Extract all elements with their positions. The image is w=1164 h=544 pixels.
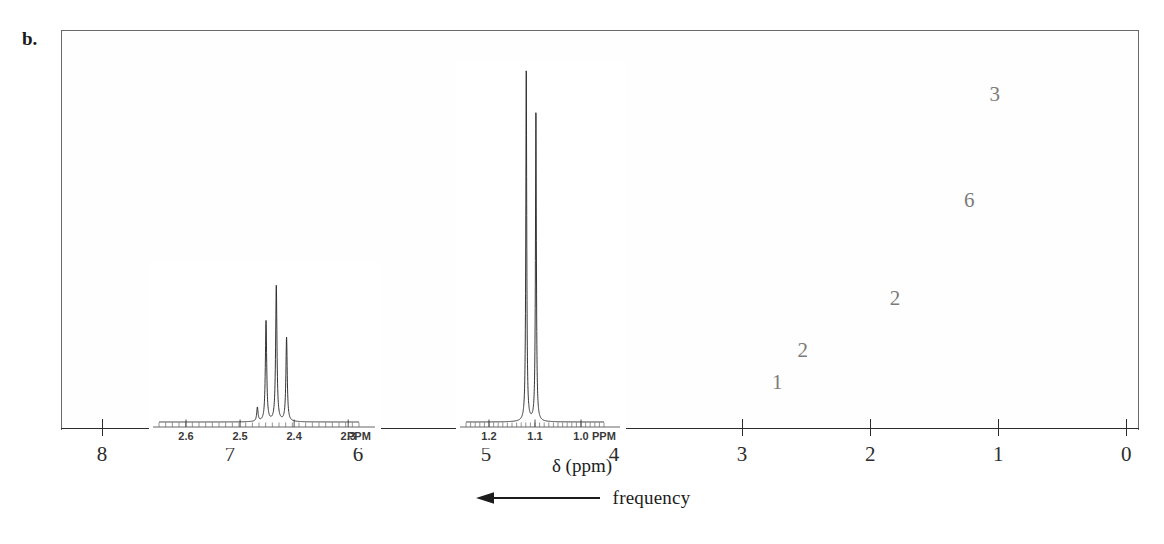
panel-label: b. bbox=[22, 28, 37, 50]
x-axis-title: δ (ppm) bbox=[0, 455, 1164, 477]
inset-right-trace-svg bbox=[456, 61, 626, 448]
spectrum-plot-area: 12263 2.62.52.42.3PPM 1.21.11.0PPM bbox=[61, 30, 1139, 430]
x-axis-tick-1 bbox=[998, 419, 999, 436]
inset-right-unit-label: PPM bbox=[592, 430, 616, 442]
left-arrow-icon bbox=[474, 490, 602, 506]
inset-left-tick-2.4: 2.4 bbox=[286, 430, 301, 442]
integration-label-6-3: 6 bbox=[964, 188, 975, 213]
inset-right-tick-1.1: 1.1 bbox=[527, 430, 542, 442]
x-axis-tick-0 bbox=[1126, 419, 1127, 436]
x-axis-tick-8 bbox=[102, 419, 103, 436]
inset-left-unit-label: PPM bbox=[347, 430, 371, 442]
inset-right-panel: 1.21.11.0PPM bbox=[456, 61, 626, 448]
inset-left-axis-labels: 2.62.52.42.3PPM bbox=[149, 430, 381, 446]
inset-left-tick-2.5: 2.5 bbox=[232, 430, 247, 442]
x-axis-tick-2 bbox=[870, 419, 871, 436]
inset-left-panel: 2.62.52.42.3PPM bbox=[149, 262, 381, 448]
inset-right-axis-labels: 1.21.11.0PPM bbox=[456, 430, 626, 446]
frequency-direction-row: frequency bbox=[0, 487, 1164, 511]
integration-label-1-0: 1 bbox=[772, 370, 783, 395]
inset-right-tick-1.2: 1.2 bbox=[481, 430, 496, 442]
frequency-label: frequency bbox=[613, 487, 691, 509]
integration-label-2-2: 2 bbox=[890, 286, 901, 311]
integration-label-2-1: 2 bbox=[798, 338, 809, 363]
inset-left-tick-2.6: 2.6 bbox=[178, 430, 193, 442]
inset-left-trace-svg bbox=[149, 262, 381, 448]
integration-label-3-4: 3 bbox=[990, 82, 1001, 107]
nmr-spectrum-figure: b. 12263 2.62.52.42.3PPM 1.21.11.0PPM 87… bbox=[0, 0, 1164, 544]
x-axis-tick-3 bbox=[742, 419, 743, 436]
inset-right-tick-1.0: 1.0 bbox=[573, 430, 588, 442]
